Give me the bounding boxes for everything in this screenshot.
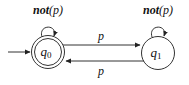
edge-q1-to-q0-label: p <box>97 64 104 78</box>
state-q1: q1 <box>142 37 175 70</box>
state-q0: q0 <box>32 36 65 69</box>
self-loop-q0-label: not(p) <box>33 3 63 17</box>
self-loop-q1 <box>151 27 164 37</box>
edge-q0-to-q1-label: p <box>97 29 104 43</box>
automaton-diagram: not(p) not(p) p p q0 q1 <box>0 0 189 85</box>
self-loop-q1-label: not(p) <box>143 3 173 17</box>
